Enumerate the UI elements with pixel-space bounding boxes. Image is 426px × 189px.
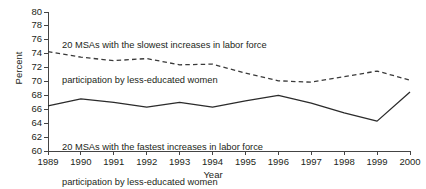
chart-figure: Percent 8078767472706866646260 198919901… <box>0 0 426 189</box>
plot-area <box>0 0 426 189</box>
series-line-fastest <box>48 92 410 121</box>
caption-strip <box>0 185 426 189</box>
data-series <box>48 52 410 122</box>
series-line-slowest <box>48 52 410 83</box>
axes <box>44 12 410 155</box>
